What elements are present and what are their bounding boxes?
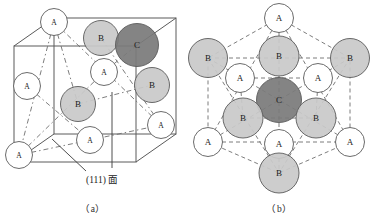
atom-circle-b [259, 153, 299, 193]
atom-circle-a [91, 59, 118, 86]
atom-circle-a [14, 73, 41, 100]
atom-circle-b [189, 39, 228, 78]
atom-circle-b [135, 68, 170, 103]
atom-b: B [259, 153, 299, 193]
atom-a: A [6, 142, 33, 169]
plane-111-annotation: (111) 面 [86, 175, 118, 186]
atom-circle-a [265, 4, 294, 33]
atom-a: A [304, 64, 333, 93]
atom-a: A [91, 59, 118, 86]
atom-circle-a [6, 142, 33, 169]
panel-b-hexagonal-projection: ABBBAACBBAAAB [186, 0, 373, 221]
atom-a: A [14, 73, 41, 100]
atom-circle-a [41, 9, 68, 36]
caption-a: （a） [0, 201, 186, 215]
panel-b-atom-group: ABBBAACBBAAAB [189, 4, 370, 194]
atom-circle-b [331, 39, 370, 78]
atom-b: B [61, 87, 96, 122]
atom-a: A [265, 4, 294, 33]
atom-circle-a [77, 127, 104, 154]
atom-b: B [296, 98, 336, 138]
atom-a: A [336, 128, 365, 157]
panel-b-svg: ABBBAACBBAAAB [186, 0, 373, 221]
atom-b: B [189, 39, 228, 78]
atom-circle-b [223, 98, 263, 138]
atom-a: A [194, 128, 223, 157]
atom-a: A [77, 127, 104, 154]
atom-circle-b [259, 36, 299, 76]
cube-edge-br [136, 134, 176, 162]
atom-circle-a [336, 128, 365, 157]
atom-circle-b [61, 87, 96, 122]
caption-b: （b） [186, 201, 373, 215]
atom-b: B [84, 21, 119, 56]
atom-circle-a [194, 128, 223, 157]
atom-b: B [259, 36, 299, 76]
atom-circle-b [84, 21, 119, 56]
atom-circle-c [116, 24, 159, 67]
atom-b: B [135, 68, 170, 103]
atom-circle-a [226, 64, 255, 93]
atom-b: B [223, 98, 263, 138]
atom-a: A [226, 64, 255, 93]
panel-a-unit-cell: ABCABABAAA (111) 面 [0, 0, 186, 221]
crystal-structure-figure: ABCABABAAA (111) 面 [0, 0, 373, 221]
panel-a-atom-group: ABCABABAAA [6, 9, 175, 169]
atom-circle-a [148, 112, 175, 139]
atom-circle-b [296, 98, 336, 138]
atom-circle-a [304, 64, 333, 93]
atom-a: A [148, 112, 175, 139]
atom-a: A [41, 9, 68, 36]
panel-a-svg: ABCABABAAA (111) 面 [0, 0, 186, 221]
atom-b: B [331, 39, 370, 78]
atom-c: C [116, 24, 159, 67]
